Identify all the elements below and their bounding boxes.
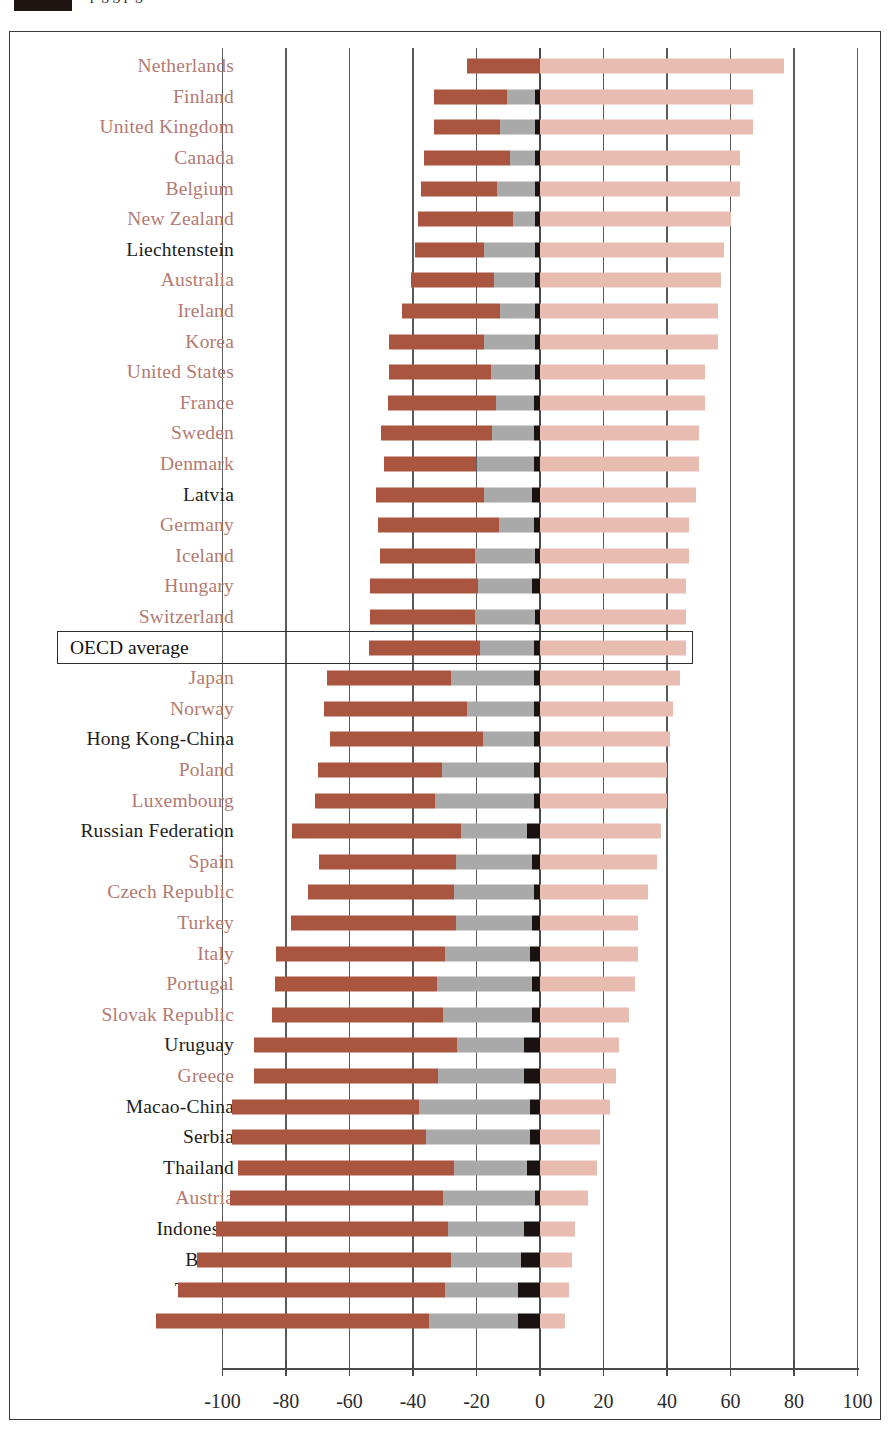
chart-row[interactable]: Hungary — [0, 571, 895, 602]
chart-row[interactable]: Austria — [0, 1183, 895, 1214]
chart-row[interactable]: France — [0, 388, 895, 419]
chart-row[interactable]: Thailand — [0, 1153, 895, 1184]
chart-row[interactable]: Brazil — [0, 1244, 895, 1275]
chart-row[interactable]: Germany — [0, 510, 895, 541]
segment-light-pink — [540, 548, 689, 563]
segment-black — [524, 1222, 540, 1237]
chart-row[interactable]: Italy — [0, 938, 895, 969]
segment-light-pink — [540, 916, 638, 931]
segment-dark-red — [324, 701, 467, 716]
chart-row[interactable]: Poland — [0, 755, 895, 786]
chart-row[interactable]: Japan — [0, 663, 895, 694]
segment-dark-red — [424, 151, 510, 166]
chart-row[interactable]: Ireland — [0, 296, 895, 327]
segment-light-pink — [540, 1069, 616, 1084]
segment-gray — [457, 1038, 524, 1053]
segment-black — [518, 1283, 540, 1298]
segment-light-pink — [540, 1283, 569, 1298]
segment-gray — [456, 854, 532, 869]
chart-row[interactable]: Macao-China — [0, 1091, 895, 1122]
segment-gray — [477, 457, 534, 472]
chart-row[interactable]: Latvia — [0, 479, 895, 510]
chart-row[interactable]: Turkey — [0, 908, 895, 939]
stacked-bar — [0, 885, 895, 900]
chart-row[interactable]: Hong Kong-China — [0, 724, 895, 755]
segment-dark-red — [376, 487, 484, 502]
segment-light-pink — [540, 89, 753, 104]
chart-row[interactable]: Russian Federation — [0, 816, 895, 847]
stacked-bar — [0, 701, 895, 716]
chart-row[interactable]: Czech Republic — [0, 877, 895, 908]
segment-dark-red — [415, 242, 485, 257]
segment-light-pink — [540, 487, 696, 502]
segment-light-pink — [540, 181, 740, 196]
chart-row[interactable]: Slovak Republic — [0, 1000, 895, 1031]
stacked-bar — [0, 273, 895, 288]
segment-dark-red — [254, 1069, 438, 1084]
segment-light-pink — [540, 977, 635, 992]
segment-light-pink — [540, 151, 740, 166]
segment-light-pink — [540, 1099, 610, 1114]
stacked-bar — [0, 1191, 895, 1206]
chart-row[interactable]: Mexico — [0, 1306, 895, 1337]
segment-gray — [456, 916, 532, 931]
stacked-bar — [0, 151, 895, 166]
stacked-bar — [0, 946, 895, 961]
chart-row[interactable]: United Kingdom — [0, 112, 895, 143]
chart-row[interactable]: Canada — [0, 143, 895, 174]
stacked-bar — [0, 1283, 895, 1298]
chart-row[interactable]: Finland — [0, 82, 895, 113]
segment-gray — [492, 426, 533, 441]
segment-light-pink — [540, 1252, 572, 1267]
segment-black — [524, 1069, 540, 1084]
chart-row[interactable]: Denmark — [0, 449, 895, 480]
chart-row[interactable]: Korea — [0, 326, 895, 357]
chart-row[interactable]: Tunisia — [0, 1275, 895, 1306]
chart-row[interactable]: New Zealand — [0, 204, 895, 235]
segment-gray — [443, 1007, 532, 1022]
segment-gray — [510, 151, 535, 166]
chart-row[interactable]: Australia — [0, 265, 895, 296]
segment-dark-red — [411, 273, 494, 288]
segment-dark-red — [434, 89, 507, 104]
segment-dark-red — [380, 548, 475, 563]
segment-dark-red — [388, 395, 496, 410]
chart-row[interactable]: Iceland — [0, 541, 895, 572]
segment-light-pink — [540, 365, 705, 380]
segment-light-pink — [540, 59, 784, 74]
segment-black — [527, 824, 540, 839]
chart-row[interactable]: Serbia — [0, 1122, 895, 1153]
stacked-bar — [0, 610, 895, 625]
stacked-bar — [0, 457, 895, 472]
chart-row[interactable]: Uruguay — [0, 1030, 895, 1061]
stacked-bar — [0, 518, 895, 533]
chart-row[interactable]: Greece — [0, 1061, 895, 1092]
chart-row[interactable]: Switzerland — [0, 602, 895, 633]
chart-row[interactable]: OECD average — [0, 632, 895, 663]
chart-row[interactable]: Sweden — [0, 418, 895, 449]
chart-row[interactable]: Netherlands — [0, 51, 895, 82]
segment-gray — [480, 640, 534, 655]
chart-row[interactable]: Belgium — [0, 173, 895, 204]
stacked-bar — [0, 640, 895, 655]
chart-row[interactable]: Spain — [0, 847, 895, 878]
stacked-bar — [0, 304, 895, 319]
segment-gray — [451, 671, 534, 686]
segment-dark-red — [330, 732, 482, 747]
chart-row[interactable]: Portugal — [0, 969, 895, 1000]
chart-row[interactable]: Luxembourg — [0, 785, 895, 816]
stacked-bar — [0, 212, 895, 227]
segment-light-pink — [540, 1038, 619, 1053]
chart-row[interactable]: Norway — [0, 694, 895, 725]
segment-light-pink — [540, 579, 686, 594]
bar-rows-container: NetherlandsFinlandUnited KingdomCanadaBe… — [0, 0, 895, 1451]
segment-light-pink — [540, 1007, 629, 1022]
stacked-bar — [0, 487, 895, 502]
chart-row[interactable]: Indonesia — [0, 1214, 895, 1245]
segment-gray — [461, 824, 528, 839]
chart-row[interactable]: United States — [0, 357, 895, 388]
segment-dark-red — [156, 1313, 429, 1328]
segment-gray — [435, 793, 533, 808]
chart-row[interactable]: Liechtenstein — [0, 235, 895, 266]
segment-black — [524, 1038, 540, 1053]
